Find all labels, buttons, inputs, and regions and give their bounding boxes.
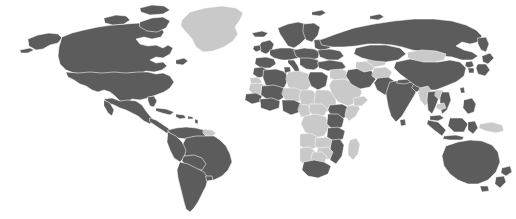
- region-lesser-antilles: [195, 119, 198, 124]
- region-taiwan: [460, 87, 465, 93]
- region-uruguay: [206, 176, 213, 181]
- region-sri-lanka: [400, 119, 406, 126]
- region-iberia: [255, 57, 276, 68]
- region-south-korea: [468, 68, 474, 73]
- world-map-svg: [0, 0, 516, 219]
- world-map-figure: Highlighted Other: [0, 0, 516, 219]
